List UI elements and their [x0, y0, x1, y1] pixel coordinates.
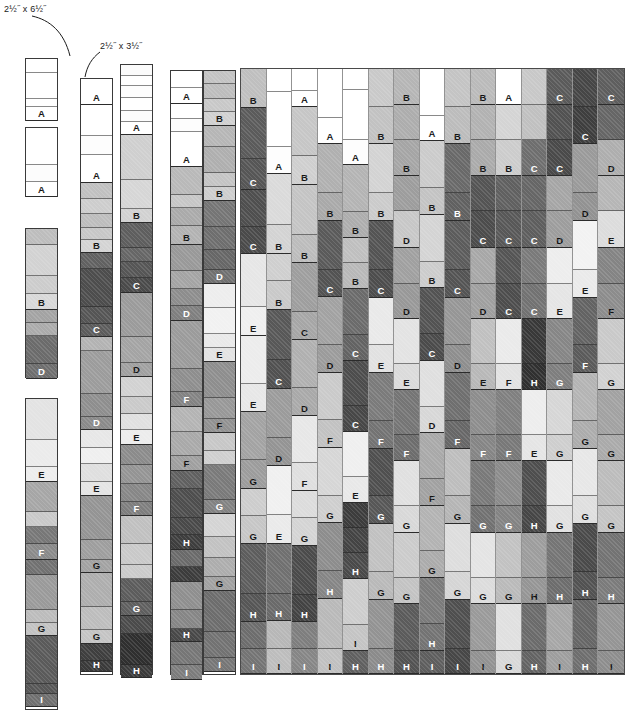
- tone-block-label: C: [547, 93, 572, 103]
- tone-block-label: B: [204, 189, 235, 199]
- tone-block: [204, 514, 235, 537]
- tone-block-label: G: [598, 378, 624, 388]
- tone-block-label: D: [26, 367, 57, 377]
- tone-block: F: [369, 421, 394, 449]
- tone-block: G: [547, 364, 572, 390]
- tone-block-label: E: [204, 350, 235, 360]
- tone-block: [171, 567, 202, 582]
- tone-block: [420, 578, 445, 624]
- tone-block-label: I: [26, 695, 57, 705]
- tone-block-label: B: [343, 226, 368, 236]
- tone-block: G: [573, 496, 598, 524]
- tone-block-label: G: [496, 662, 521, 672]
- tone-block: B: [204, 112, 235, 126]
- tone-block: [598, 176, 624, 212]
- grid-column-11: ABCCFFGGG: [496, 69, 522, 674]
- tone-block: [369, 144, 394, 193]
- tone-block-label: B: [204, 114, 235, 124]
- tone-block: [496, 604, 521, 651]
- tone-block: B: [369, 193, 394, 221]
- tone-block: E: [369, 345, 394, 373]
- tone-block: I: [318, 649, 343, 673]
- tone-block: F: [471, 435, 496, 461]
- tone-block: [522, 390, 547, 435]
- tone-block: [420, 215, 445, 262]
- tone-block: F: [171, 456, 202, 471]
- tone-block-label: E: [394, 378, 419, 388]
- tone-block: [343, 503, 368, 528]
- tone-block: [81, 644, 112, 661]
- tone-block: [26, 229, 57, 245]
- tone-block: B: [267, 281, 292, 310]
- tone-block: [81, 269, 112, 307]
- tone-block: G: [241, 516, 266, 544]
- tone-block-label: F: [445, 437, 470, 447]
- tone-block: G: [318, 496, 343, 524]
- tone-block: [394, 461, 419, 506]
- tone-block: G: [369, 496, 394, 524]
- tone-block: C: [496, 211, 521, 248]
- tone-block: A: [121, 122, 152, 135]
- tone-block: [343, 69, 368, 90]
- tone-block-label: I: [241, 662, 266, 672]
- tone-block: [394, 248, 419, 284]
- column-5: BBDEFGGI: [203, 70, 236, 675]
- tone-block: B: [241, 69, 266, 108]
- tone-block: [171, 104, 202, 119]
- tone-block: [598, 248, 624, 284]
- tone-block: [394, 105, 419, 141]
- tone-block: [241, 544, 266, 594]
- tone-block: F: [318, 420, 343, 448]
- grid-column-7: BBDDEFGGH: [394, 69, 420, 674]
- tone-block: [81, 337, 112, 351]
- tone-block: [471, 248, 496, 284]
- tone-block: I: [343, 625, 368, 651]
- tone-block: [121, 248, 152, 262]
- tone-block: [471, 319, 496, 364]
- tone-block: G: [204, 500, 235, 514]
- tone-block: [343, 361, 368, 406]
- tone-block-label: B: [394, 93, 419, 103]
- tone-block: [445, 221, 470, 270]
- tone-block: [394, 604, 419, 651]
- tone-block-label: F: [292, 479, 317, 489]
- tone-block-label: E: [241, 400, 266, 410]
- tone-block: [171, 119, 202, 132]
- tone-block: [343, 432, 368, 477]
- tone-block-label: H: [267, 609, 292, 619]
- tone-block-label: A: [26, 185, 57, 195]
- tone-block: [445, 373, 470, 421]
- tone-block: I: [420, 651, 445, 674]
- tone-block: [81, 253, 112, 269]
- tone-block: [81, 105, 112, 136]
- tone-block-label: E: [81, 484, 112, 494]
- tone-block-label: E: [241, 324, 266, 334]
- tone-block-label: H: [522, 662, 547, 672]
- tone-block-label: H: [318, 587, 343, 597]
- tone-block-label: F: [318, 436, 343, 446]
- tone-block: E: [598, 211, 624, 248]
- tone-block: [121, 544, 152, 565]
- tone-block: [598, 533, 624, 578]
- tone-block: [496, 533, 521, 578]
- tone-block-label: F: [171, 459, 202, 469]
- tone-block: [204, 126, 235, 147]
- tone-block: [26, 399, 57, 440]
- tone-block: [573, 524, 598, 572]
- tone-block: [496, 176, 521, 212]
- tone-block: [26, 323, 57, 336]
- column-1-swatch-b: A: [25, 127, 58, 197]
- tone-block: [369, 69, 394, 107]
- tone-block-label: G: [369, 588, 394, 598]
- tone-block: B: [471, 140, 496, 176]
- column-3: ABCDEFGH: [120, 64, 153, 675]
- tone-block: [292, 622, 317, 649]
- tone-block: [573, 373, 598, 421]
- tone-block: [171, 167, 202, 195]
- tone-block-label: G: [81, 561, 112, 571]
- tone-block: D: [267, 438, 292, 467]
- tone-block-label: F: [573, 361, 598, 371]
- tone-block: [445, 144, 470, 193]
- tone-block-label: B: [26, 298, 57, 308]
- tone-block-label: H: [598, 592, 624, 602]
